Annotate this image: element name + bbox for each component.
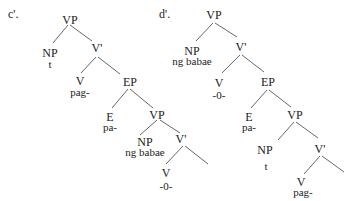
node-e-word: pa- (103, 121, 117, 133)
node-v-word: pag- (293, 186, 313, 198)
tree-label-c: c'. (8, 7, 19, 21)
edge (130, 89, 153, 108)
node-v: V (215, 76, 224, 90)
edge (269, 90, 291, 107)
node-np-word: t (264, 160, 267, 172)
edge (112, 89, 128, 108)
node-vbar: V' (315, 142, 326, 156)
edge (98, 57, 120, 74)
edge (166, 146, 183, 164)
edge (70, 25, 92, 41)
tree-c-prime: c'. VP NP t V' V pag- EP E pa- VP NP ng … (8, 7, 208, 192)
node-vbar: V' (236, 40, 247, 54)
node-v-word: pag- (70, 86, 90, 98)
edge (251, 90, 267, 108)
edge (222, 55, 240, 73)
node-vbar: V' (92, 41, 103, 55)
edge (140, 120, 157, 135)
node-e-word: pa- (242, 121, 256, 133)
node-vp: VP (62, 13, 78, 27)
edge (242, 55, 264, 72)
tree-label-d: d'. (159, 7, 170, 21)
syntax-tree-diagram: c'. VP NP t V' V pag- EP E pa- VP NP ng … (0, 0, 350, 201)
edge (278, 122, 294, 140)
node-vbar: V' (176, 132, 187, 146)
tree-d-prime: d'. VP NP ng babae V' V -0- EP E pa- VP … (159, 7, 344, 198)
node-ep: EP (123, 75, 137, 89)
node-v-word: -0- (160, 180, 173, 192)
node-np-word: t (48, 58, 51, 70)
node-ep: EP (261, 75, 275, 89)
edge (185, 146, 208, 164)
node-v: V (162, 166, 171, 180)
node-v-word: -0- (213, 89, 226, 101)
edge (215, 23, 237, 37)
edge (81, 57, 96, 73)
edge (196, 23, 213, 41)
edge (304, 156, 320, 174)
node-vp: VP (206, 8, 222, 22)
edge (322, 156, 344, 172)
node-np-word: ng babae (125, 146, 165, 158)
edge (53, 25, 68, 43)
edge (296, 122, 318, 138)
node-np: NP (257, 143, 273, 157)
node-vp: VP (149, 108, 165, 122)
node-vp: VP (287, 108, 303, 122)
node-np-word: ng babae (172, 55, 212, 67)
